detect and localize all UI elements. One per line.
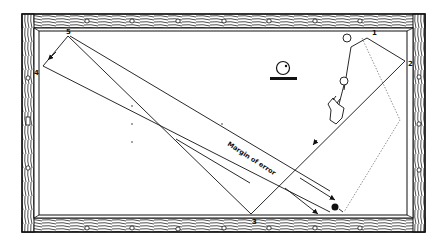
rail-label-2: 2 — [408, 60, 413, 68]
rail-label-3: 3 — [252, 218, 257, 226]
rail-label-5: 5 — [66, 28, 71, 36]
cue-ball-start — [343, 34, 351, 42]
cue-ball — [340, 77, 348, 85]
cushion — [34, 28, 413, 218]
object-ball — [332, 204, 339, 211]
pool-table-diagram: 1 2 3 4 5 Margin of error — [0, 0, 447, 248]
rail-label-1: 1 — [372, 29, 377, 37]
rail-label-4: 4 — [34, 69, 39, 77]
